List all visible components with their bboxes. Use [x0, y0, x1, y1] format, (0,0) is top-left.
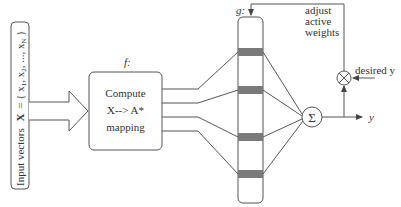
output-y-label: y: [368, 111, 374, 123]
weight-column: g:: [236, 4, 263, 203]
desired-y-label: desired y: [355, 64, 396, 76]
feedback-line: adjust active weights: [251, 4, 344, 71]
mapping-line2: X--> A*: [107, 104, 144, 116]
input-vector-label: Input vectors X = { x1, x2, ..., xN }: [14, 30, 28, 186]
diagram-canvas: Input vectors X = { x1, x2, ..., xN } f:…: [0, 0, 401, 207]
output: y: [322, 111, 374, 123]
mapping-box: f: Compute X--> A* mapping: [89, 56, 162, 150]
mapping-connections: [162, 52, 238, 174]
weights-label: weights: [305, 26, 339, 38]
weight-band: [238, 133, 263, 141]
weight-band: [238, 170, 263, 178]
mapping-line3: mapping: [106, 121, 145, 133]
mapping-line1: Compute: [105, 87, 145, 99]
weight-band: [238, 48, 263, 56]
input-arrow: [29, 91, 88, 131]
input-vector-box: Input vectors X = { x1, x2, ..., xN }: [11, 22, 29, 189]
g-label: g:: [236, 4, 245, 16]
sigma-icon: Σ: [308, 110, 316, 125]
error-branch: desired y: [337, 64, 396, 117]
sum-node: Σ: [302, 107, 322, 127]
weight-band: [238, 86, 263, 94]
f-label: f:: [124, 56, 131, 68]
band-to-sum-connections: [263, 52, 303, 174]
